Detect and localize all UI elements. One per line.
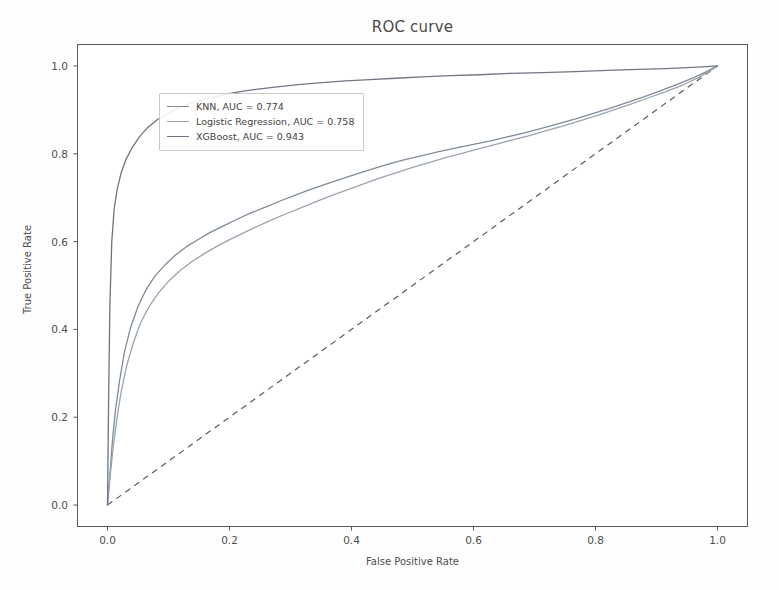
x-axis-label: False Positive Rate	[77, 556, 748, 567]
x-tick-label: 0.0	[99, 534, 116, 546]
chart-title: ROC curve	[77, 18, 748, 36]
legend-swatch-logistic-regression	[167, 121, 189, 122]
legend-swatch-knn	[167, 106, 189, 107]
legend-item-xgboost: XGBoost, AUC = 0.943	[167, 129, 354, 144]
legend-item-logistic-regression: Logistic Regression, AUC = 0.758	[167, 114, 354, 129]
x-tick-label: 0.2	[221, 534, 238, 546]
legend-item-knn: KNN, AUC = 0.774	[167, 99, 354, 114]
chart-legend: KNN, AUC = 0.774 Logistic Regression, AU…	[159, 93, 364, 151]
legend-label-knn: KNN, AUC = 0.774	[196, 101, 284, 112]
y-tick-label: 0.8	[32, 148, 68, 160]
legend-label-logistic-regression: Logistic Regression, AUC = 0.758	[196, 116, 354, 127]
legend-label-xgboost: XGBoost, AUC = 0.943	[196, 131, 304, 142]
y-tick-label: 0.6	[32, 236, 68, 248]
y-tick-label: 0.0	[32, 499, 68, 511]
roc-chart-figure: ROC curve KNN, AUC = 0.774 Logistic Regr…	[0, 0, 779, 590]
y-tick-label: 0.4	[32, 323, 68, 335]
y-tick-label: 1.0	[32, 60, 68, 72]
y-axis-label: True Positive Rate	[22, 210, 33, 330]
plot-area: KNN, AUC = 0.774 Logistic Regression, AU…	[77, 44, 748, 527]
x-tick-label: 0.4	[343, 534, 360, 546]
y-tick-label: 0.2	[32, 411, 68, 423]
x-tick-label: 1.0	[709, 534, 726, 546]
x-tick-label: 0.8	[587, 534, 604, 546]
x-tick-label: 0.6	[465, 534, 482, 546]
legend-swatch-xgboost	[167, 136, 189, 137]
